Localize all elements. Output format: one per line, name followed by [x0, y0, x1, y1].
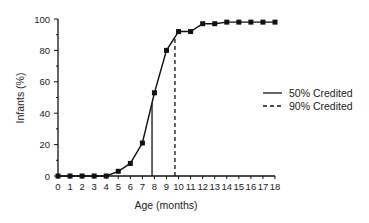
x-tick-label: 14	[221, 181, 232, 192]
axes: 0123456789101112131415161718020406080100	[34, 14, 280, 193]
data-point-marker	[260, 20, 265, 25]
x-tick-label: 0	[55, 181, 60, 192]
y-axis-label: Infants (%)	[14, 73, 26, 124]
data-point-marker	[128, 161, 133, 166]
line-chart: 0123456789101112131415161718020406080100…	[0, 0, 369, 223]
legend: 50% Credited90% Credited	[263, 87, 353, 112]
x-tick-label: 6	[128, 181, 133, 192]
y-tick-label: 40	[39, 108, 50, 119]
x-tick-label: 13	[209, 181, 220, 192]
x-tick-label: 11	[186, 181, 196, 192]
data-point-marker	[224, 20, 229, 25]
x-tick-label: 12	[197, 181, 208, 192]
x-tick-label: 8	[152, 181, 157, 192]
y-tick-label: 80	[39, 45, 50, 56]
data-point-marker	[248, 20, 253, 25]
x-tick-label: 2	[79, 181, 84, 192]
data-point-marker	[212, 21, 217, 26]
data-point-marker	[200, 21, 205, 26]
x-tick-label: 9	[164, 181, 169, 192]
x-tick-label: 4	[104, 181, 109, 192]
data-point-marker	[80, 174, 85, 179]
x-tick-label: 1	[67, 181, 72, 192]
data-point-marker	[116, 169, 121, 174]
x-axis-label: Age (months)	[134, 199, 197, 211]
data-point-marker	[56, 174, 61, 179]
y-tick-label: 0	[45, 171, 50, 182]
data-point-marker	[92, 174, 97, 179]
x-tick-label: 7	[140, 181, 145, 192]
legend-label: 50% Credited	[289, 87, 353, 99]
x-tick-label: 3	[92, 181, 97, 192]
data-point-marker	[236, 20, 241, 25]
x-tick-label: 16	[246, 181, 257, 192]
data-point-marker	[164, 48, 169, 53]
y-tick-label: 20	[39, 139, 50, 150]
x-tick-label: 5	[116, 181, 121, 192]
y-tick-label: 100	[34, 14, 50, 25]
data-point-marker	[104, 174, 109, 179]
data-point-marker	[68, 174, 73, 179]
data-point-marker	[152, 90, 157, 95]
legend-label: 90% Credited	[289, 100, 353, 112]
data-series	[56, 20, 278, 179]
data-point-marker	[176, 29, 181, 34]
x-tick-label: 15	[234, 181, 245, 192]
data-point-marker	[188, 29, 193, 34]
x-tick-label: 17	[258, 181, 269, 192]
data-point-marker	[140, 141, 145, 146]
reference-lines	[152, 37, 175, 176]
series-line	[58, 22, 275, 176]
y-tick-label: 60	[39, 76, 50, 87]
data-point-marker	[273, 20, 278, 25]
x-tick-label: 10	[173, 181, 184, 192]
x-tick-label: 18	[270, 181, 281, 192]
